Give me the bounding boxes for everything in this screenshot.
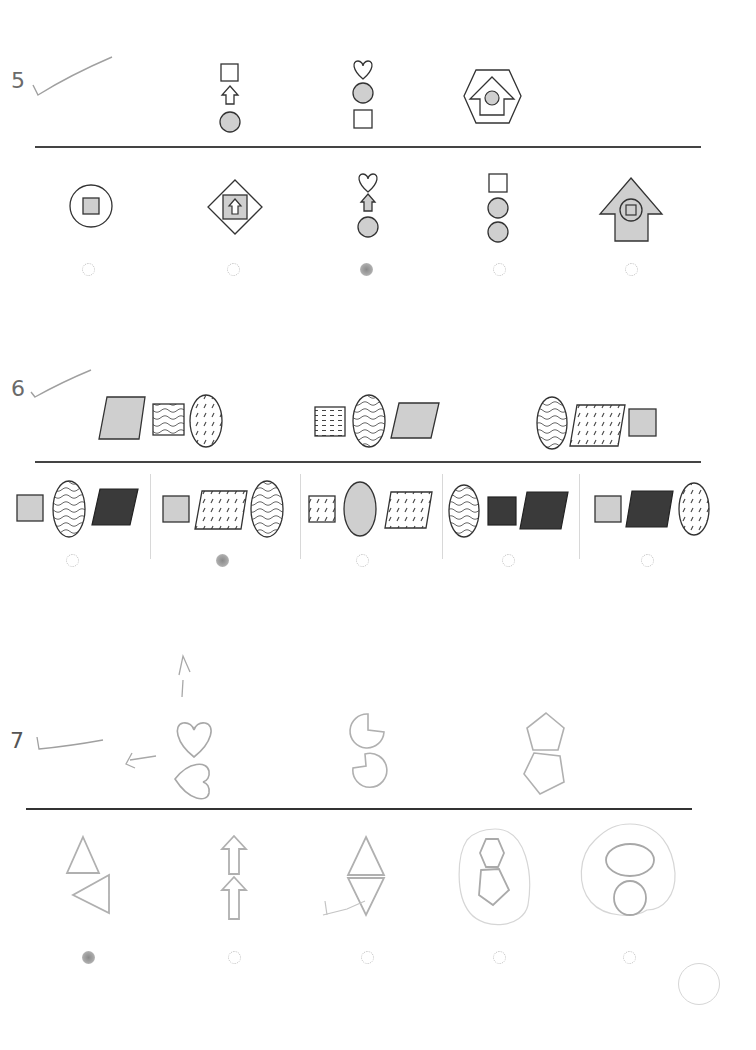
sequence-figure-1	[97, 393, 227, 453]
option-3-figure	[353, 170, 383, 245]
option-3-figure	[306, 479, 436, 541]
divider-line	[35, 146, 701, 148]
divider-line	[26, 808, 692, 810]
option-2-figure	[218, 833, 254, 923]
option-separator	[579, 474, 580, 559]
sequence-figure-2	[348, 58, 378, 138]
answer-bubble-option-3[interactable]	[361, 951, 374, 964]
sequence-figure-1	[215, 60, 245, 140]
pencil-up-arrow-annotation	[170, 650, 210, 700]
answer-bubble-option-2[interactable]	[228, 951, 241, 964]
checkmark-icon	[0, 700, 120, 760]
scan-artifact-circle	[678, 963, 720, 1005]
answer-bubble-option-3-selected[interactable]	[360, 263, 373, 276]
answer-bubble-option-4[interactable]	[493, 951, 506, 964]
answer-bubble-option-1[interactable]	[66, 554, 79, 567]
option-4-figure	[455, 825, 535, 930]
sequence-figure-3	[535, 393, 660, 453]
answer-bubble-option-5[interactable]	[625, 263, 638, 276]
answer-bubble-option-2-selected[interactable]	[216, 554, 229, 567]
sequence-figure-2	[345, 710, 395, 802]
checkmark-icon	[0, 0, 120, 110]
sequence-figure-2	[313, 393, 443, 453]
answer-bubble-option-2[interactable]	[227, 263, 240, 276]
divider-line	[35, 461, 701, 463]
sequence-figure-3	[520, 710, 570, 802]
option-3-figure	[315, 833, 395, 923]
option-1-figure	[64, 833, 116, 923]
option-2-figure	[160, 479, 290, 541]
sequence-figure-3	[462, 67, 524, 129]
answer-bubble-option-5[interactable]	[623, 951, 636, 964]
option-separator	[442, 474, 443, 559]
option-4-figure	[483, 170, 513, 245]
option-5-figure	[598, 175, 666, 247]
answer-bubble-option-1[interactable]	[82, 263, 95, 276]
option-1-figure	[68, 184, 116, 232]
answer-bubble-option-4[interactable]	[493, 263, 506, 276]
pencil-left-arrow-annotation	[120, 748, 165, 778]
answer-bubble-option-4[interactable]	[502, 554, 515, 567]
option-2-figure	[206, 178, 266, 238]
option-5-figure	[592, 479, 717, 541]
option-separator	[300, 474, 301, 559]
option-4-figure	[447, 479, 577, 541]
answer-bubble-option-5[interactable]	[641, 554, 654, 567]
option-separator	[150, 474, 151, 559]
answer-bubble-option-3[interactable]	[356, 554, 369, 567]
answer-bubble-option-1-selected[interactable]	[82, 951, 95, 964]
option-1-figure	[14, 479, 144, 541]
sequence-figure-1	[170, 715, 220, 803]
option-5-figure	[575, 818, 685, 928]
